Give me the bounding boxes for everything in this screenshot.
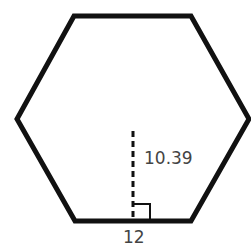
hexagon-figure bbox=[0, 0, 251, 251]
hexagon-outline bbox=[17, 16, 249, 221]
hexagon-diagram: 10.39 12 bbox=[0, 0, 251, 251]
apothem-label: 10.39 bbox=[144, 150, 193, 167]
side-length-label: 12 bbox=[123, 229, 145, 246]
right-angle-marker bbox=[133, 204, 150, 221]
